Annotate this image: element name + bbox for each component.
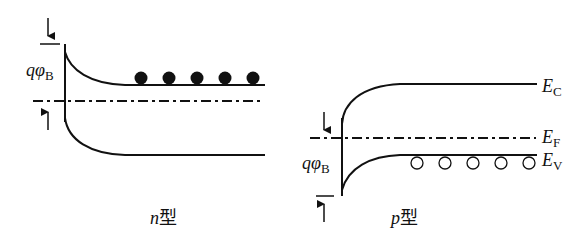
hole <box>495 157 507 169</box>
n-type-caption: n型 <box>150 208 177 228</box>
electrons <box>135 72 260 85</box>
electron <box>247 72 260 85</box>
p-barrier-label: qφB <box>302 153 330 176</box>
n-valence-band <box>65 118 265 155</box>
ec-label: EC <box>541 76 562 99</box>
p-conduction-band <box>342 84 537 124</box>
holes <box>411 157 535 169</box>
n-barrier-label: qφB <box>26 60 54 83</box>
electron <box>219 72 232 85</box>
hole <box>467 157 479 169</box>
ev-label: EV <box>541 150 563 173</box>
p-type-panel: qφB EC EF EV p型 <box>302 76 563 228</box>
ef-label: EF <box>541 127 560 150</box>
p-type-caption: p型 <box>389 208 418 228</box>
electron <box>163 72 176 85</box>
electron <box>191 72 204 85</box>
electron <box>135 72 148 85</box>
hole <box>411 157 423 169</box>
hole <box>523 157 535 169</box>
hole <box>439 157 451 169</box>
n-type-panel: qφB n型 <box>26 18 265 228</box>
band-diagram: qφB n型 qφB <box>0 0 588 246</box>
